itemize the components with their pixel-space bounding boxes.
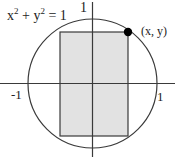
equation-x-variable: x xyxy=(7,8,14,23)
corner-point-label: (x, y) xyxy=(141,25,167,37)
equation-label: x2 + y2 = 1 xyxy=(7,9,67,23)
y-axis-tick-label: 1 xyxy=(80,1,87,15)
corner-point-marker xyxy=(124,28,132,36)
equation-plus-operator: + xyxy=(19,8,34,23)
x-axis-negative-tick-label: -1 xyxy=(11,88,22,101)
figure-canvas: x2 + y2 = 1 1 -1 1 (x, y) xyxy=(0,0,175,162)
equation-equals-one: = 1 xyxy=(45,8,67,23)
x-axis-positive-tick-label: 1 xyxy=(157,90,164,103)
